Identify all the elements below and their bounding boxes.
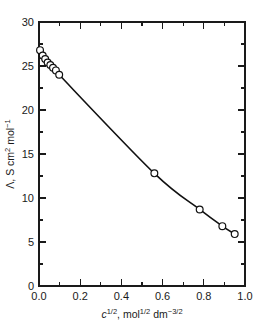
y-tick-label-10: 10 (22, 192, 34, 204)
data-point (219, 223, 226, 230)
chart-figure: 0 5 10 15 20 25 30 0.0 0.2 0.4 0.6 0.8 1… (0, 0, 260, 325)
data-point (56, 71, 63, 78)
y-axis-title-mol-exp: −1 (3, 119, 12, 128)
y-axis-right-ticks (238, 44, 245, 264)
x-axis-title-c-exp: 1/2 (107, 307, 117, 316)
data-point (151, 170, 158, 177)
x-axis-title-dm: dm (150, 308, 168, 320)
data-series-layer (37, 47, 238, 238)
data-point (196, 206, 203, 213)
y-axis-title-lambda: Λ, S cm (4, 152, 16, 189)
x-axis-tick-labels: 0.0 0.2 0.4 0.6 0.8 1.0 (31, 290, 252, 302)
x-axis-title: c1/2, mol1/2 dm−3/2 (101, 307, 182, 320)
y-tick-label-20: 20 (22, 104, 34, 116)
y-axis-title: Λ, S cm2 mol−1 (3, 119, 16, 188)
y-tick-label-25: 25 (22, 60, 34, 72)
x-axis-top-ticks (60, 22, 225, 29)
data-point (231, 231, 238, 238)
x-tick-label-0.6: 0.6 (155, 290, 170, 302)
y-axis-tick-labels: 0 5 10 15 20 25 30 (22, 16, 34, 292)
x-axis-title-mol-exp: 1/2 (140, 307, 150, 316)
x-tick-label-0.4: 0.4 (114, 290, 129, 302)
x-tick-label-0.0: 0.0 (31, 290, 46, 302)
x-tick-label-0.8: 0.8 (196, 290, 211, 302)
conductivity-plot: 0 5 10 15 20 25 30 0.0 0.2 0.4 0.6 0.8 1… (0, 0, 260, 325)
x-tick-label-1.0: 1.0 (237, 290, 252, 302)
y-tick-label-30: 30 (22, 16, 34, 28)
data-curve (40, 50, 235, 234)
x-tick-label-0.2: 0.2 (73, 290, 88, 302)
y-axis-title-mol: mol (4, 128, 16, 148)
plot-frame (39, 22, 245, 286)
y-tick-label-5: 5 (28, 236, 34, 248)
x-axis-title-dm-exp: −3/2 (168, 307, 183, 316)
x-axis-title-comma: , mol (117, 308, 140, 320)
y-tick-label-15: 15 (22, 148, 34, 160)
